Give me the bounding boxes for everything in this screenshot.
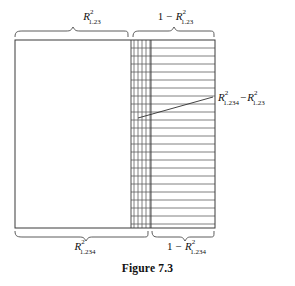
variance-partition-diagram (0, 0, 295, 286)
top-right-brace (133, 27, 214, 37)
top-left-brace (15, 27, 128, 37)
bottom-right-brace (152, 231, 214, 241)
figure-caption: Figure 7.3 (0, 262, 295, 274)
horizontal-hatch-lines (131, 48, 215, 224)
bottom-left-brace (15, 231, 148, 241)
callout-leader-line (138, 97, 213, 118)
figure-container: R21.23 1 − R21.23 R21.234 1 − R21.234 R2… (0, 0, 295, 286)
